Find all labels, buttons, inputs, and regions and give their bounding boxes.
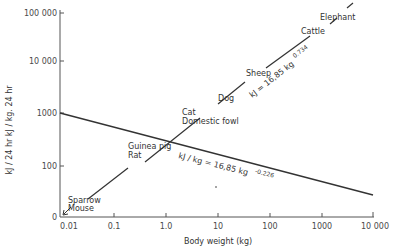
label-cat: Cat <box>182 108 196 117</box>
x-ticks <box>114 212 373 217</box>
y-tick-label: 1000 <box>37 109 57 118</box>
y-ticks <box>60 13 64 166</box>
x-tick-label: 0.01 <box>60 222 78 231</box>
x-tick-label: 10 <box>213 222 223 231</box>
label-domestic-fowl: Domestic fowl <box>182 117 239 126</box>
x-tick-label: 0.1 <box>108 222 121 231</box>
stray-dot <box>215 186 217 188</box>
y-tick-label: 100 <box>42 162 57 171</box>
x-tick-label: 1000 <box>312 222 332 231</box>
label-elephant: Elephant <box>320 13 355 22</box>
svg-text:kJ / kg = 16,85 kg: kJ / kg = 16,85 kg <box>178 151 249 177</box>
label-rat: Rat <box>128 151 141 160</box>
label-dog: Dog <box>218 94 234 103</box>
svg-text:0.734: 0.734 <box>291 43 309 59</box>
label-guinea-pig: Guinea pig <box>128 142 171 151</box>
y-tick-label: 100 000 <box>24 9 57 18</box>
x-tick-label: 10 000 <box>361 222 389 231</box>
label-mouse: Mouse <box>68 204 94 213</box>
y-tick-label: 0 <box>52 213 57 222</box>
y-tick-label: 10 000 <box>29 57 57 66</box>
x-tick-label: 1.0 <box>160 222 173 231</box>
x-axis-title: Body weight (kg) <box>184 237 252 246</box>
svg-text:kJ = 16,85 kg: kJ = 16,85 kg <box>248 59 296 99</box>
metabolic-rate-chart: 100 000 10 000 1000 100 0 0.01 0.1 1.0 1… <box>0 0 398 251</box>
x-tick-label: 100 <box>262 222 277 231</box>
y-axis-title: kJ / 24 hr kJ / kg. 24 hr <box>5 85 14 175</box>
label-cattle: Cattle <box>301 27 325 36</box>
